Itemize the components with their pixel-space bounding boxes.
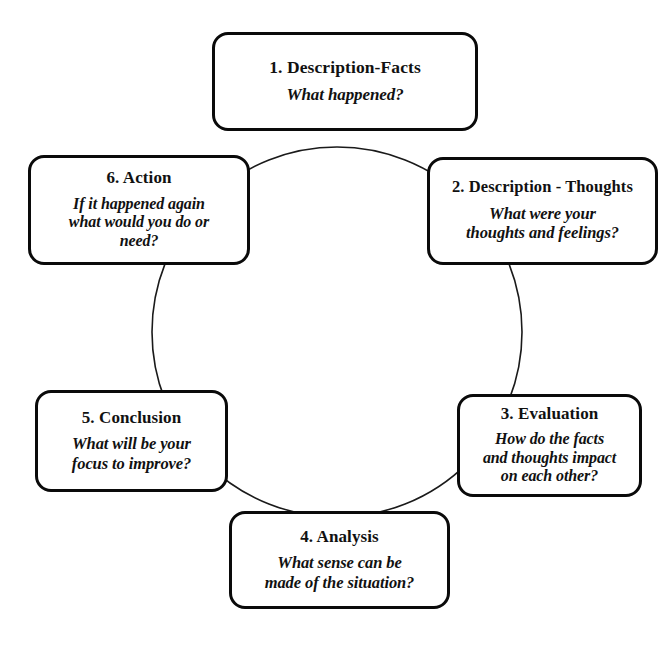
cycle-step-prompt-line: on each other? (483, 467, 616, 486)
cycle-step-description-thoughts[interactable]: 2. Description - Thoughts What were your… (427, 157, 658, 265)
cycle-step-title: 5. Conclusion (82, 407, 182, 428)
cycle-step-title: 4. Analysis (300, 526, 379, 547)
cycle-step-prompt-line: focus to improve? (72, 454, 191, 473)
cycle-step-analysis[interactable]: 4. Analysis What sense can be made of th… (229, 511, 450, 609)
cycle-step-prompt-line: and thoughts impact (483, 449, 616, 468)
reflective-cycle-diagram: 1. Description-Facts What happened? 2. D… (0, 0, 672, 647)
cycle-step-prompt-line: What happened? (286, 85, 403, 105)
cycle-step-prompt-line: If it happened again (69, 195, 209, 214)
cycle-step-prompt-line: How do the facts (483, 430, 616, 449)
cycle-step-title: 3. Evaluation (501, 403, 599, 424)
cycle-step-prompt-line: thoughts and feelings? (466, 223, 619, 242)
cycle-step-prompt-line: what would you do or (69, 213, 209, 232)
cycle-step-prompt: What sense can be made of the situation? (265, 553, 415, 592)
cycle-step-title: 1. Description-Facts (269, 57, 421, 79)
cycle-step-title: 6. Action (106, 167, 171, 188)
cycle-step-prompt-line: What were your (466, 204, 619, 223)
cycle-step-prompt: What will be your focus to improve? (72, 434, 191, 473)
cycle-step-prompt-line: need? (69, 232, 209, 251)
cycle-step-action[interactable]: 6. Action If it happened again what woul… (28, 155, 250, 265)
cycle-step-prompt-line: What sense can be (265, 553, 415, 572)
cycle-step-prompt: How do the facts and thoughts impact on … (483, 430, 616, 486)
cycle-step-prompt: If it happened again what would you do o… (69, 195, 209, 251)
cycle-step-description-facts[interactable]: 1. Description-Facts What happened? (212, 32, 478, 131)
cycle-step-evaluation[interactable]: 3. Evaluation How do the facts and thoug… (457, 394, 642, 497)
cycle-step-title: 2. Description - Thoughts (452, 177, 633, 198)
cycle-step-prompt: What were your thoughts and feelings? (466, 204, 619, 243)
cycle-step-prompt-line: made of the situation? (265, 573, 415, 592)
cycle-step-prompt: What happened? (286, 85, 403, 105)
cycle-step-conclusion[interactable]: 5. Conclusion What will be your focus to… (35, 390, 228, 492)
cycle-step-prompt-line: What will be your (72, 434, 191, 453)
